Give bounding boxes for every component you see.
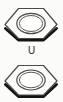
hex-nut-diagram — [0, 0, 63, 102]
diagram-canvas: U — [0, 0, 63, 102]
hex-nut-top — [5, 9, 57, 41]
hex-nut-bottom — [5, 66, 57, 97]
